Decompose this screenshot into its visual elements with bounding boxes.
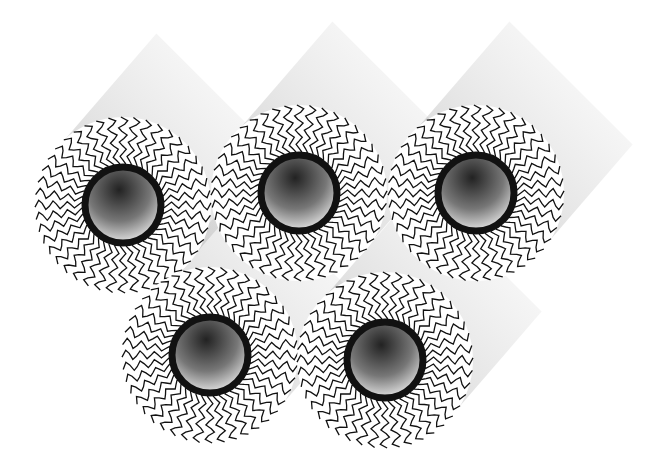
micelle-core xyxy=(261,155,337,231)
micelle-core xyxy=(172,317,248,393)
hexagonal-cylinder-packing xyxy=(0,0,659,468)
micelle-core xyxy=(85,167,161,243)
micelle-diagram xyxy=(0,0,659,468)
cylinder-face xyxy=(297,272,473,448)
cylinder-face xyxy=(122,267,298,443)
micelle-core xyxy=(438,155,514,231)
cylinder-face xyxy=(388,105,564,281)
cylinder-face xyxy=(211,105,387,281)
cylinder-face xyxy=(35,117,211,293)
micelle-core xyxy=(347,322,423,398)
